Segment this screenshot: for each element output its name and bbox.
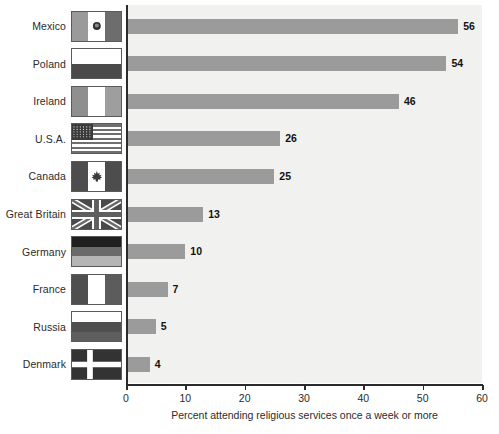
flag-great-britain-icon <box>71 199 122 230</box>
flag-band <box>72 247 121 257</box>
bar-value-label: 26 <box>285 132 297 144</box>
x-axis-tick-label: 0 <box>123 392 129 404</box>
flag-band <box>72 332 121 342</box>
chart-row: Poland <box>0 45 126 83</box>
chart-row: U.S.A. <box>0 120 126 158</box>
flag-poland-icon <box>71 48 122 79</box>
chart-row: France <box>0 270 126 308</box>
flag-france-icon <box>71 274 122 305</box>
country-label: Great Britain <box>6 208 71 220</box>
flag-band <box>105 162 121 191</box>
bar <box>126 56 446 71</box>
bar-value-label: 46 <box>404 95 416 107</box>
flag-band <box>105 275 121 304</box>
x-axis-tick <box>482 385 484 390</box>
x-axis-tick-label: 60 <box>476 392 488 404</box>
flag-band <box>72 87 88 116</box>
x-axis-tick-label: 10 <box>179 392 191 404</box>
x-axis-tick <box>423 385 425 390</box>
chart-row: Germany <box>0 233 126 271</box>
bar <box>126 207 203 222</box>
country-label: France <box>33 283 71 295</box>
x-axis-tick-label: 30 <box>298 392 310 404</box>
flag-canada-icon <box>71 161 122 192</box>
country-label: Poland <box>33 58 71 70</box>
y-axis-line <box>126 5 128 385</box>
country-label: Denmark <box>23 358 71 370</box>
flag-band <box>72 256 121 266</box>
flag-band <box>72 275 88 304</box>
chart-row: Great Britain <box>0 195 126 233</box>
flag-band <box>105 87 121 116</box>
bar <box>126 19 458 34</box>
chart-row: Ireland <box>0 82 126 120</box>
flag-germany-icon <box>71 236 122 267</box>
bar <box>126 319 156 334</box>
bar-value-label: 5 <box>161 320 167 332</box>
chart-row: Mexico <box>0 7 126 45</box>
flag-russia-icon <box>71 311 122 342</box>
x-axis-title: Percent attending religious services onc… <box>126 409 483 421</box>
category-axis: MexicoPolandIrelandU.S.A.CanadaGreat Bri… <box>0 0 126 434</box>
country-label: Mexico <box>32 20 71 32</box>
country-label: Ireland <box>33 95 71 107</box>
country-label: Russia <box>33 321 71 333</box>
bar-value-label: 4 <box>155 358 161 370</box>
x-axis-tick <box>245 385 247 390</box>
bar-value-label: 25 <box>279 170 291 182</box>
country-label: Germany <box>22 246 71 258</box>
flag-band <box>72 162 88 191</box>
flag-ireland-icon <box>71 86 122 117</box>
flag-band <box>105 12 121 41</box>
x-axis-tick <box>185 385 187 390</box>
flag-band <box>72 312 121 322</box>
bar-value-label: 54 <box>451 57 463 69</box>
bar <box>126 244 185 259</box>
flag-band <box>72 64 121 79</box>
bar-value-label: 56 <box>463 20 475 32</box>
flag-denmark-icon <box>71 349 122 380</box>
flag-band <box>88 275 104 304</box>
bar <box>126 357 150 372</box>
x-axis-tick <box>126 385 128 390</box>
x-axis-tick <box>363 385 365 390</box>
x-axis-tick-label: 20 <box>239 392 251 404</box>
flag-band <box>88 87 104 116</box>
bar-value-label: 13 <box>208 208 220 220</box>
bar-chart: MexicoPolandIrelandU.S.A.CanadaGreat Bri… <box>0 0 499 434</box>
bar-value-label: 7 <box>173 283 179 295</box>
chart-row: Russia <box>0 308 126 346</box>
bar <box>126 169 274 184</box>
flag-band <box>72 237 121 247</box>
chart-row: Canada <box>0 157 126 195</box>
bar <box>126 94 399 109</box>
flag-mexico-icon <box>71 11 122 42</box>
bar <box>126 282 168 297</box>
flag-band <box>72 322 121 332</box>
bar-value-label: 10 <box>190 245 202 257</box>
chart-row: Denmark <box>0 345 126 383</box>
country-label: Canada <box>29 170 71 182</box>
flag-stripe <box>72 151 121 153</box>
x-axis-tick-label: 40 <box>357 392 369 404</box>
flag-band <box>72 12 88 41</box>
flag-band <box>72 49 121 64</box>
x-axis-tick-label: 50 <box>417 392 429 404</box>
x-axis-tick <box>304 385 306 390</box>
bar <box>126 131 280 146</box>
flag-usa-icon <box>71 123 122 154</box>
country-label: U.S.A. <box>35 133 71 145</box>
